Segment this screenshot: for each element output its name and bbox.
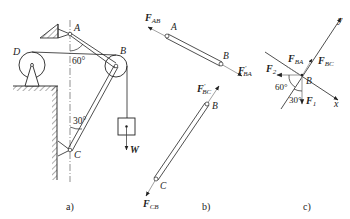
pulley-d — [19, 52, 45, 86]
member-ab — [165, 34, 223, 66]
label-f-ba-prime: F′BA — [237, 64, 252, 78]
label-a-b: A — [170, 22, 177, 32]
label-f2: F2 — [265, 63, 277, 76]
label-w: W — [130, 144, 140, 155]
angle-60-label: 60° — [72, 56, 86, 66]
caption-b: b) — [202, 201, 210, 213]
angle-60-label-c: 60° — [275, 82, 288, 92]
label-c: C — [74, 149, 81, 160]
force-f-bc — [302, 59, 312, 76]
caption-a: a) — [66, 201, 74, 213]
statics-figure: A B C D 60° 30° W a) FAB A — [0, 0, 350, 219]
label-b-b2: B — [212, 101, 218, 111]
member-bc — [154, 102, 209, 181]
panel-b: FAB A B F′BA F′BC B C FCB b) — [142, 12, 252, 213]
caption-c: c) — [303, 201, 311, 213]
label-a: A — [73, 22, 81, 33]
force-line-ab — [148, 27, 167, 37]
support-a — [40, 24, 70, 38]
label-f-bc: FBC — [317, 55, 334, 68]
rod-bc — [68, 66, 118, 151]
label-x: x — [333, 98, 339, 109]
panel-a: A B C D 60° 30° W a) — [12, 20, 140, 213]
label-f1: F1 — [305, 95, 316, 108]
label-f-cb: FCB — [142, 198, 159, 211]
label-b-c: B — [306, 76, 312, 86]
label-c-b: C — [160, 181, 167, 191]
label-b-b1: B — [223, 51, 229, 61]
angle-arc-30-c — [294, 89, 302, 91]
angle-30-label-c: 30° — [289, 95, 302, 105]
label-b: B — [120, 45, 126, 56]
panel-c: y x FBA FBC F2 F1 B 60° 30° c) — [265, 14, 343, 213]
label-y: y — [337, 14, 343, 25]
angle-arc-60 — [70, 44, 83, 51]
force-line-cb — [146, 179, 156, 196]
force-f-ba — [286, 66, 302, 76]
label-f-ab: FAB — [144, 12, 161, 25]
ground — [13, 86, 58, 180]
label-f-ba: FBA — [287, 53, 304, 66]
angle-30-label: 30° — [73, 116, 87, 126]
label-f-bc-prime: F′BC — [196, 82, 211, 96]
pin-a — [68, 32, 72, 36]
angle-arc-60-c — [289, 75, 295, 87]
label-d: D — [12, 46, 21, 57]
